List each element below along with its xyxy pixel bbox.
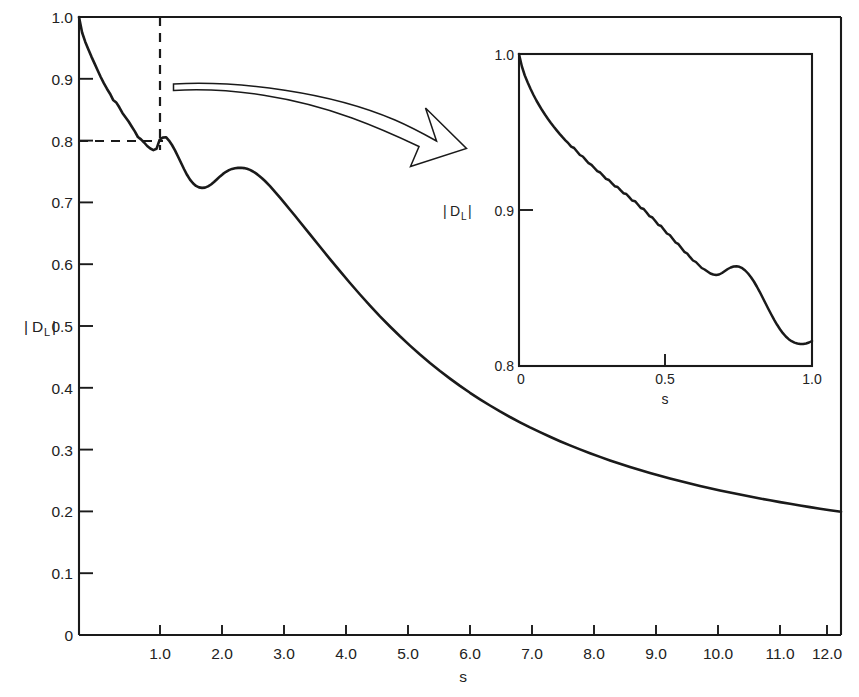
y-axis-title-D: D xyxy=(32,318,43,335)
y-axis-title-L: L xyxy=(44,326,50,338)
y-label-0.1: 0.1 xyxy=(51,565,73,582)
inset-x-label-1.0: 1.0 xyxy=(802,371,822,387)
inset-background xyxy=(519,54,812,366)
inset-y-title-D: D xyxy=(450,203,460,219)
inset-y-label-0.9: 0.9 xyxy=(495,203,515,219)
x-label-10.0: 10.0 xyxy=(703,645,734,662)
main-y-axis-title: | D L | xyxy=(24,318,56,338)
y-label-0.7: 0.7 xyxy=(51,194,73,211)
guide-lines xyxy=(79,17,163,150)
x-label-4.0: 4.0 xyxy=(335,645,357,662)
figure-container: 1.0 0.9 0.8 0.7 0.6 0.5 0.4 0.3 0.2 0.1 … xyxy=(0,0,859,697)
curved-zoom-arrow xyxy=(174,83,467,166)
y-label-0.3: 0.3 xyxy=(51,442,73,459)
main-x-axis-title: s xyxy=(459,668,467,685)
x-label-11.0: 11.0 xyxy=(765,645,794,662)
x-label-6.0: 6.0 xyxy=(459,645,481,662)
x-label-12.0: 12.0 xyxy=(812,645,843,662)
plot-svg: 1.0 0.9 0.8 0.7 0.6 0.5 0.4 0.3 0.2 0.1 … xyxy=(0,0,859,697)
y-label-0.4: 0.4 xyxy=(51,380,73,397)
inset-y-bar-left: | xyxy=(443,203,447,219)
y-label-0.9: 0.9 xyxy=(51,71,73,88)
inset-plot: 1.0 0.9 0.8 | D L | 0 0.5 1.0 s xyxy=(443,47,822,407)
y-axis-bar-right: | xyxy=(52,318,56,335)
inset-y-label-0.8: 0.8 xyxy=(495,358,515,374)
inset-y-title-L: L xyxy=(461,211,467,222)
inset-x-label-0.5: 0.5 xyxy=(655,371,675,387)
x-label-1.0: 1.0 xyxy=(149,645,171,662)
zoom-arrow-shape xyxy=(174,83,467,166)
x-label-5.0: 5.0 xyxy=(397,645,419,662)
main-x-ticks xyxy=(160,625,827,635)
x-label-2.0: 2.0 xyxy=(211,645,233,662)
inset-x-label-0: 0 xyxy=(517,371,525,387)
y-label-0.6: 0.6 xyxy=(51,256,73,273)
inset-x-axis-title: s xyxy=(662,391,669,407)
main-y-ticks xyxy=(79,17,93,573)
y-label-0.8: 0.8 xyxy=(51,133,73,150)
inset-y-label-1.0: 1.0 xyxy=(495,47,515,63)
x-label-9.0: 9.0 xyxy=(645,645,667,662)
x-label-8.0: 8.0 xyxy=(583,645,605,662)
y-axis-bar-left: | xyxy=(24,318,28,335)
y-label-0: 0 xyxy=(64,627,73,644)
x-label-7.0: 7.0 xyxy=(521,645,543,662)
y-label-0.2: 0.2 xyxy=(51,503,73,520)
y-label-1.0: 1.0 xyxy=(51,9,73,26)
main-x-tick-labels: 1.0 2.0 3.0 4.0 5.0 6.0 7.0 8.0 9.0 10.0… xyxy=(149,645,842,685)
inset-y-bar-right: | xyxy=(468,203,472,219)
inset-y-axis-title: | D L | xyxy=(443,203,472,222)
x-label-3.0: 3.0 xyxy=(273,645,295,662)
